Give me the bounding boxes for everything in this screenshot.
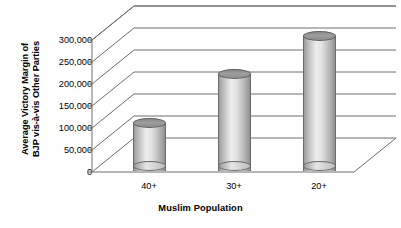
x-axis-title: Muslim Population: [0, 203, 401, 213]
bar-top-ellipse: [218, 69, 251, 79]
bar-20-plus: [303, 31, 336, 171]
x-tick-label-40-plus: 40+: [119, 181, 179, 191]
chart-grid: [0, 0, 401, 228]
bar-top-ellipse: [303, 31, 336, 41]
bar-base-ellipse: [133, 161, 166, 171]
bar-top-ellipse: [133, 118, 166, 128]
x-tick-label-20-plus: 20+: [289, 181, 349, 191]
bar-base-ellipse: [303, 161, 336, 171]
bar-body: [218, 74, 251, 171]
bar-30-plus: [218, 69, 251, 171]
bar-40-plus: [133, 118, 166, 171]
bar-body: [303, 36, 336, 171]
bar-chart: Average Victory Margin of BJP vis-à-vis …: [0, 0, 401, 228]
bar-base-ellipse: [218, 161, 251, 171]
x-tick-label-30-plus: 30+: [204, 181, 264, 191]
